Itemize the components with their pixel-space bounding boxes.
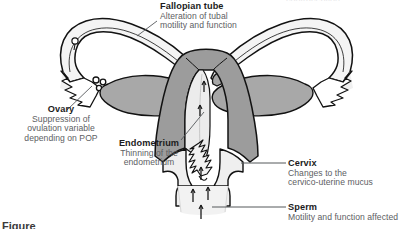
callout-fallopian-tube: Fallopian tube Alteration of tubal motil… bbox=[160, 1, 290, 31]
callout-desc-sperm-line1: Motility and function affected bbox=[288, 213, 413, 223]
figure-root: Fallopian tube Alteration of tubal motil… bbox=[0, 0, 413, 229]
released-ovum-b bbox=[100, 79, 106, 85]
callout-title-fallopian-tube: Fallopian tube bbox=[160, 1, 290, 12]
callout-sperm: Sperm Motility and function affected bbox=[288, 202, 413, 222]
figure-caption-fragment: Figure bbox=[2, 221, 36, 229]
callout-title-cervix: Cervix bbox=[288, 158, 412, 169]
external-os bbox=[199, 176, 207, 180]
callout-title-ovary: Ovary bbox=[2, 104, 120, 115]
vaginal-canal bbox=[178, 186, 228, 215]
callout-desc-cervix-line2: cervico-uterine mucus bbox=[288, 178, 412, 188]
callout-title-endometrium: Endometrium bbox=[94, 138, 204, 149]
left-ovum-circle-upper bbox=[72, 38, 78, 44]
callout-desc-fallopian-tube-line2: motility and function bbox=[160, 21, 290, 31]
clipped-heading-remnant: contraception bbox=[286, 0, 340, 1]
released-ovum-a bbox=[93, 77, 99, 83]
callout-desc-endometrium-line2: endometrium bbox=[94, 158, 204, 168]
callout-endometrium: Endometrium Thinning of the endometrium bbox=[94, 138, 204, 168]
callout-cervix: Cervix Changes to the cervico-uterine mu… bbox=[288, 158, 412, 188]
callout-title-sperm: Sperm bbox=[288, 202, 413, 213]
